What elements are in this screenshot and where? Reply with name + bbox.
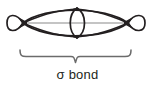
span-brace (20, 50, 131, 63)
sigma-bond-figure: σ bond (0, 0, 155, 88)
bond-label: σ bond (0, 67, 155, 82)
right-back-lobe (128, 15, 145, 30)
left-back-lobe (7, 15, 23, 30)
